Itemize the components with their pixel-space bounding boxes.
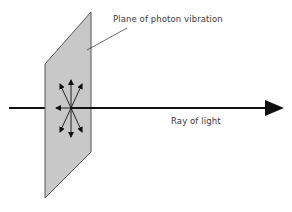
- vibration-plane: [45, 12, 91, 198]
- polarization-diagram: [0, 0, 292, 212]
- plane-label: Plane of photon vibration: [113, 14, 223, 24]
- plane-label-leader-line: [87, 28, 127, 50]
- ray-label: Ray of light: [171, 116, 221, 126]
- ray-arrowhead-icon: [265, 100, 284, 116]
